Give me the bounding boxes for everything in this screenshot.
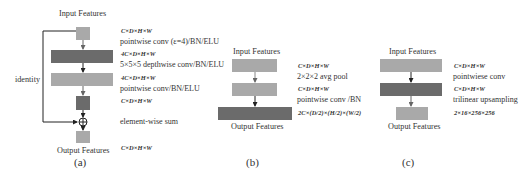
panel-b-op-2: pointwise conv /BN (297, 95, 361, 104)
panel-a-dim-3: 4C×D×H×W (121, 74, 155, 81)
panel-c-op-1: pointwiese conv (453, 72, 505, 81)
panel-c-caption: (c) (402, 156, 414, 168)
panel-a-expand-block (51, 50, 113, 63)
panel-b-input-block (232, 59, 277, 72)
panel-a-op-2: 5×5×5 depthwise conv/BN/ELU (120, 60, 224, 69)
panel-a-output-block (76, 131, 90, 143)
panel-b-pool-block (232, 83, 277, 96)
panel-a-project-block (76, 96, 90, 110)
panel-c-op-2: trilinear upsampling (453, 95, 518, 104)
panel-b-output-block (218, 107, 292, 120)
panel-c-output-block (396, 107, 428, 120)
panel-b-input-label: Input Features (233, 47, 280, 56)
panel-a-output-label: Output Features (57, 146, 110, 155)
panel-a-identity-label: identity (15, 75, 40, 84)
panel-a-dim-4: C×D×H×W (121, 97, 152, 104)
panel-b-output-label: Output Features (231, 122, 284, 131)
panel-c-output-label: Output Features (388, 122, 441, 131)
panel-b-op-1: 2×2×2 avg pool (297, 72, 348, 81)
panel-c-input-block (380, 59, 442, 72)
panel-a-caption: (a) (74, 156, 86, 168)
panel-a-op-4: element-wise sum (120, 117, 178, 126)
panel-c-dim-1: C×D×H×W (454, 62, 485, 69)
panel-a-dim-1: C×D×H×W (121, 27, 152, 34)
panel-a-input-label: Input Features (59, 9, 106, 18)
panel-c-input-label: Input Features (389, 47, 436, 56)
panel-a-depthwise-block (51, 73, 113, 86)
panel-a-dim-5: C×D×H×W (121, 144, 152, 151)
panel-c-dim-2: C×D×H×W (454, 85, 485, 92)
panel-b-dim-3: 2C×(D/2)×(H/2)×(W/2) (298, 109, 361, 116)
panel-a-op-3: pointwise conv/BN/ELU (120, 84, 200, 93)
panel-a-input-block (76, 27, 90, 40)
panel-c-dim-3: 2×16×256×256 (454, 109, 495, 116)
panel-c-conv-block (380, 83, 442, 96)
panel-b-dim-2: C×D×H×W (298, 85, 329, 92)
panel-a-op-1: pointwise conv (ε=4)/BN/ELU (120, 37, 219, 46)
sum-icon (79, 118, 87, 126)
panel-b-dim-1: C×D×H×W (298, 62, 329, 69)
panel-a-dim-2: 4C×D×H×W (121, 50, 155, 57)
panel-b-caption: (b) (246, 156, 259, 168)
